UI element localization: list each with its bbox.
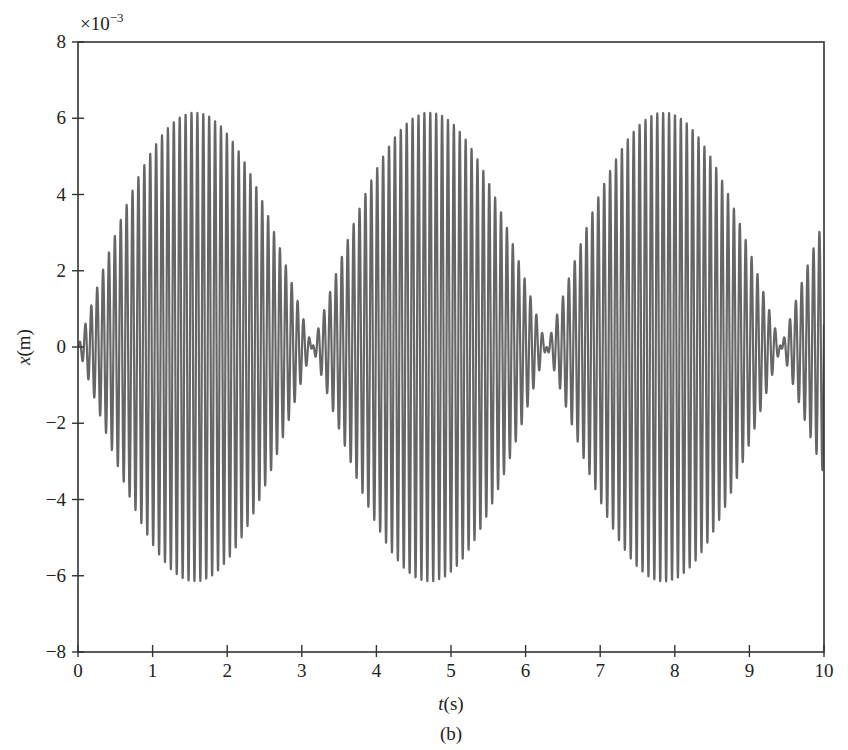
x-tick-label: 7 xyxy=(595,660,605,681)
x-axis-ticks: 012345678910 xyxy=(73,645,833,681)
y-tick-label: 6 xyxy=(57,107,67,128)
y-tick-label: −4 xyxy=(46,489,67,510)
x-tick-label: 10 xyxy=(815,660,834,681)
x-axis-label: t(s) xyxy=(438,693,463,715)
x-tick-label: 2 xyxy=(222,660,232,681)
chart: 012345678910 −8−6−4−202468 ×10−3 t(s) x(… xyxy=(0,0,848,750)
x-tick-label: 0 xyxy=(73,660,83,681)
x-tick-label: 6 xyxy=(521,660,531,681)
x-tick-label: 5 xyxy=(446,660,456,681)
x-tick-label: 3 xyxy=(297,660,307,681)
figure-caption: (b) xyxy=(440,723,462,745)
signal-line xyxy=(78,113,824,582)
y-axis-label: x(m) xyxy=(13,329,35,366)
y-tick-label: −2 xyxy=(46,412,66,433)
y-tick-label: 8 xyxy=(57,31,67,52)
x-tick-label: 1 xyxy=(148,660,158,681)
y-tick-label: 2 xyxy=(57,260,67,281)
x-tick-label: 8 xyxy=(670,660,680,681)
y-tick-label: −6 xyxy=(46,565,66,586)
y-tick-label: −8 xyxy=(46,641,66,662)
y-exponent-label: ×10−3 xyxy=(80,10,124,34)
x-tick-label: 4 xyxy=(372,660,382,681)
x-tick-label: 9 xyxy=(745,660,755,681)
y-tick-label: 4 xyxy=(57,184,67,205)
y-tick-label: 0 xyxy=(57,336,67,357)
